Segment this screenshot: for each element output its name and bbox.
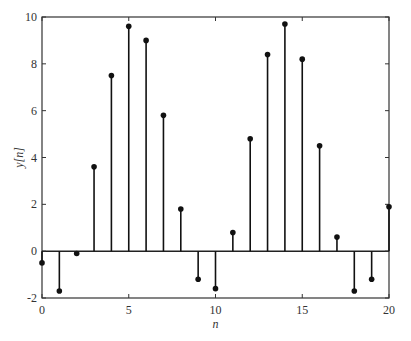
plot-area: 05101520-20246810ny[n] (12, 10, 395, 331)
stem-marker (282, 21, 288, 27)
stem-marker (299, 56, 305, 62)
stem-marker (39, 260, 45, 266)
x-axis-label: n (213, 317, 219, 331)
x-tick-label: 15 (296, 303, 308, 317)
y-tick-label: 0 (31, 244, 37, 258)
stem-marker (74, 251, 80, 257)
y-tick-label: 8 (31, 57, 37, 71)
x-tick-label: 0 (39, 303, 45, 317)
y-tick-label: 6 (31, 104, 37, 118)
x-tick-label: 5 (126, 303, 132, 317)
y-axis-label: y[n] (12, 147, 26, 169)
stem-marker (334, 234, 340, 240)
stem-marker (317, 143, 323, 149)
x-tick-label: 20 (383, 303, 395, 317)
stem-marker (57, 288, 63, 294)
y-tick-label: 4 (31, 151, 37, 165)
stem-marker (178, 206, 184, 212)
stem-marker (143, 38, 149, 44)
stem-marker (386, 204, 392, 210)
stem-marker (91, 164, 97, 170)
x-tick-label: 10 (210, 303, 222, 317)
stem-marker (265, 52, 271, 58)
stem-marker (213, 286, 219, 292)
stem-marker (161, 113, 167, 119)
stem-marker (195, 276, 201, 282)
y-tick-label: -2 (27, 291, 37, 305)
stem-marker (230, 230, 236, 236)
stem-marker (126, 24, 132, 30)
stem-marker (109, 73, 115, 79)
y-tick-label: 2 (31, 197, 37, 211)
stem-chart: 05101520-20246810ny[n] (0, 0, 411, 341)
stem-marker (369, 276, 375, 282)
stem-marker (247, 136, 253, 142)
y-tick-label: 10 (25, 10, 37, 24)
stem-marker (352, 288, 358, 294)
